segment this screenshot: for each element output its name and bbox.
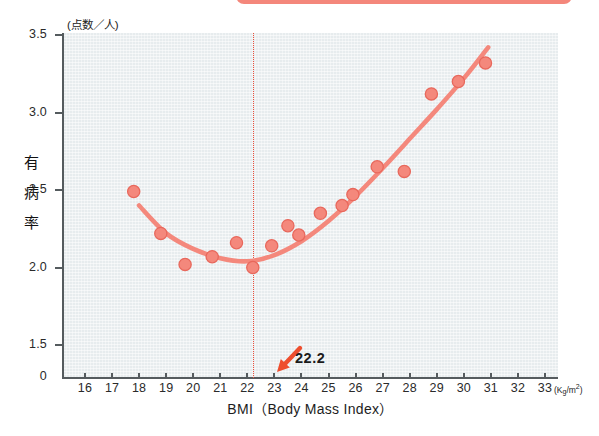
- data-point: [425, 88, 437, 100]
- data-point: [398, 165, 410, 177]
- data-point: [314, 207, 326, 219]
- data-point: [230, 237, 242, 249]
- annotation-label-22-2: 22.2: [295, 350, 325, 366]
- figure-root: (点数／人) 有 病 率 01.52.02.53.03.5 1617181920…: [0, 0, 599, 436]
- data-point: [266, 240, 278, 252]
- x-axis-title: BMI（Body Mass Index）: [63, 398, 558, 418]
- data-point: [371, 161, 383, 173]
- fit-curve: [139, 47, 488, 261]
- x-axis-unit-label: (Kg/m2): [554, 383, 583, 395]
- data-point: [479, 57, 491, 69]
- data-point: [128, 185, 140, 197]
- data-point: [179, 258, 191, 270]
- data-point: [206, 251, 218, 263]
- data-point: [347, 189, 359, 201]
- data-point: [336, 199, 348, 211]
- data-layer: [0, 0, 599, 436]
- data-point: [155, 227, 167, 239]
- x-unit-prefix: (K: [554, 385, 563, 395]
- x-unit-sup: 2: [576, 383, 580, 390]
- data-point: [247, 261, 259, 273]
- x-unit-rest: /m: [566, 385, 575, 395]
- data-point: [293, 229, 305, 241]
- data-point: [282, 220, 294, 232]
- data-point: [452, 75, 464, 87]
